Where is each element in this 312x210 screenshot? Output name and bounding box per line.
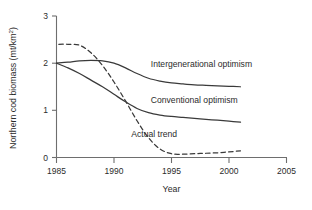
series-label-intergenerational-optimism: Intergenerational optimism (151, 59, 252, 69)
y-tick-label-3: 3 (43, 11, 48, 21)
y-tick-label-2: 2 (43, 58, 48, 68)
x-tick-label-2005: 2005 (277, 166, 296, 176)
y-axis-title: Northern cod biomass (mt/km2) (7, 27, 19, 149)
y-tick-label-0: 0 (43, 153, 48, 163)
x-tick-label-2000: 2000 (220, 166, 239, 176)
y-tick-label-1: 1 (43, 105, 48, 115)
chart-container: 0 1 2 3 1985 1990 1995 2000 2005 Year No… (0, 0, 312, 210)
y-axis-title-tail: ) (8, 27, 18, 30)
x-tick-label-1985: 1985 (47, 166, 66, 176)
x-tick-label-1995: 1995 (162, 166, 181, 176)
x-tick-label-1990: 1990 (105, 166, 124, 176)
y-axis-title-main: Northern cod biomass (mt/km (8, 34, 18, 149)
series-label-conventional-optimism: Conventional optimism (151, 95, 238, 105)
x-axis-ticks (57, 158, 287, 164)
series-line-conventional-optimism (57, 63, 241, 122)
series-label-actual-trend: Actual trend (131, 129, 177, 139)
y-axis-ticks (52, 16, 57, 158)
x-axis-title: Year (163, 184, 181, 194)
cod-biomass-line-chart: 0 1 2 3 1985 1990 1995 2000 2005 Year No… (0, 0, 312, 210)
